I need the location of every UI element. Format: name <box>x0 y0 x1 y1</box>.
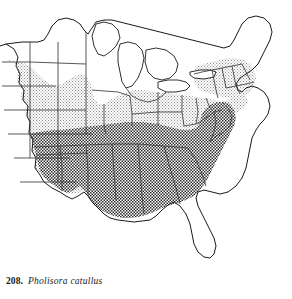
distribution-map-figure <box>0 0 292 268</box>
species-name: Pholisora catullus <box>23 276 102 286</box>
lake-michigan <box>118 42 144 88</box>
lake-superior <box>92 22 120 56</box>
figure-caption: 208.Pholisora catullus <box>6 275 102 288</box>
lake-erie <box>158 80 190 92</box>
figure-number: 208. <box>6 276 23 286</box>
map-svg <box>0 0 292 268</box>
lake-huron <box>145 48 178 80</box>
